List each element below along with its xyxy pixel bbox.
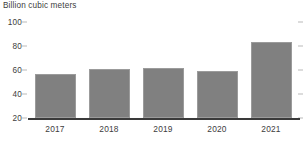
axis-tick-left: [22, 22, 27, 23]
x-axis-tick-label: 2017: [45, 124, 64, 135]
axis-tick-right: [298, 94, 303, 95]
axis-tick-right: [298, 22, 303, 23]
plot-area: [28, 16, 298, 120]
x-axis-tick-label: 2020: [207, 124, 226, 135]
bar-2020[interactable]: [197, 71, 238, 118]
bar-2018[interactable]: [89, 69, 130, 118]
y-axis-tick-label: 20: [12, 114, 22, 123]
bar-chart: Billion cubic meters 20406080100 2017201…: [0, 0, 306, 143]
x-axis-tick-label: 2021: [261, 124, 280, 135]
x-axis-line: [28, 118, 300, 120]
y-axis-tick-label: 60: [12, 66, 22, 75]
bar-2017[interactable]: [35, 74, 76, 118]
bar-2019[interactable]: [143, 68, 184, 118]
y-axis-tick-label: 40: [12, 90, 22, 99]
y-axis-tick-label: 80: [12, 42, 22, 51]
axis-tick-left: [22, 46, 27, 47]
axis-tick-right: [298, 70, 303, 71]
axis-tick-left: [22, 94, 27, 95]
axis-tick-right: [298, 46, 303, 47]
x-axis-tick-label: 2019: [153, 124, 172, 135]
y-axis: 20406080100: [0, 0, 22, 143]
y-axis-tick-label: 100: [8, 18, 22, 27]
x-axis-tick-label: 2018: [99, 124, 118, 135]
bar-2021[interactable]: [251, 42, 292, 118]
axis-tick-left: [22, 118, 27, 119]
axis-tick-left: [22, 70, 27, 71]
